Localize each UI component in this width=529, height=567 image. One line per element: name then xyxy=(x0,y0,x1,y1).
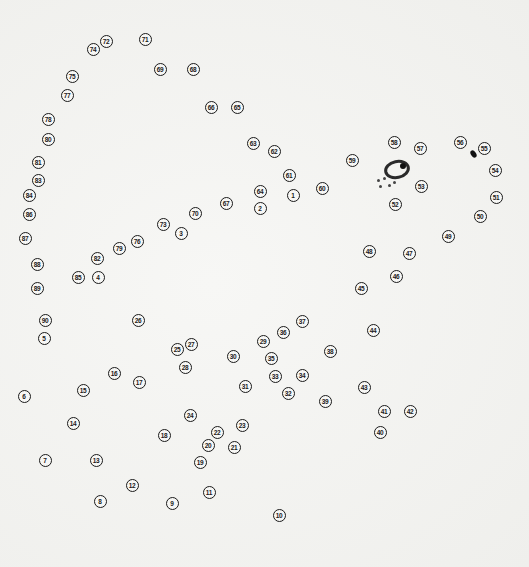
dot-82[interactable]: 82 xyxy=(91,252,104,265)
dot-5[interactable]: 5 xyxy=(38,332,51,345)
dot-31[interactable]: 31 xyxy=(239,380,252,393)
dot-22[interactable]: 22 xyxy=(211,426,224,439)
dot-33[interactable]: 33 xyxy=(269,370,282,383)
dot-29[interactable]: 29 xyxy=(257,335,270,348)
dot-46[interactable]: 46 xyxy=(390,270,403,283)
dot-79[interactable]: 79 xyxy=(113,242,126,255)
dot-47[interactable]: 47 xyxy=(403,247,416,260)
dot-30[interactable]: 30 xyxy=(227,350,240,363)
dot-37[interactable]: 37 xyxy=(296,315,309,328)
dot-13[interactable]: 13 xyxy=(90,454,103,467)
dot-56[interactable]: 56 xyxy=(454,136,467,149)
dot-28[interactable]: 28 xyxy=(179,361,192,374)
dot-69[interactable]: 69 xyxy=(154,63,167,76)
eye-outline xyxy=(382,158,411,182)
dot-9[interactable]: 9 xyxy=(166,497,179,510)
speck-mark xyxy=(379,185,382,188)
dot-39[interactable]: 39 xyxy=(319,395,332,408)
dot-81[interactable]: 81 xyxy=(32,156,45,169)
dot-72[interactable]: 72 xyxy=(100,35,113,48)
dot-18[interactable]: 18 xyxy=(158,429,171,442)
dot-86[interactable]: 86 xyxy=(23,208,36,221)
dot-14[interactable]: 14 xyxy=(67,417,80,430)
dot-60[interactable]: 60 xyxy=(316,182,329,195)
dot-19[interactable]: 19 xyxy=(194,456,207,469)
dot-6[interactable]: 6 xyxy=(18,390,31,403)
eye-pupil xyxy=(400,163,406,169)
dot-48[interactable]: 48 xyxy=(363,245,376,258)
dot-41[interactable]: 41 xyxy=(378,405,391,418)
dot-59[interactable]: 59 xyxy=(346,154,359,167)
dot-32[interactable]: 32 xyxy=(282,387,295,400)
dot-21[interactable]: 21 xyxy=(228,441,241,454)
dot-12[interactable]: 12 xyxy=(126,479,139,492)
dot-80[interactable]: 80 xyxy=(42,133,55,146)
dot-36[interactable]: 36 xyxy=(277,326,290,339)
dot-63[interactable]: 63 xyxy=(247,137,260,150)
dot-16[interactable]: 16 xyxy=(108,367,121,380)
dot-17[interactable]: 17 xyxy=(133,376,146,389)
dot-to-dot-sheet: 1234567891011121314151617181920212223242… xyxy=(0,0,529,567)
speck-mark xyxy=(388,184,391,187)
dot-2[interactable]: 2 xyxy=(254,202,267,215)
dot-7[interactable]: 7 xyxy=(39,454,52,467)
dot-57[interactable]: 57 xyxy=(414,142,427,155)
dot-70[interactable]: 70 xyxy=(189,207,202,220)
dot-85[interactable]: 85 xyxy=(72,271,85,284)
dot-51[interactable]: 51 xyxy=(490,191,503,204)
dot-68[interactable]: 68 xyxy=(187,63,200,76)
dot-64[interactable]: 64 xyxy=(254,185,267,198)
dot-25[interactable]: 25 xyxy=(171,343,184,356)
dot-73[interactable]: 73 xyxy=(157,218,170,231)
dot-4[interactable]: 4 xyxy=(92,271,105,284)
dot-74[interactable]: 74 xyxy=(87,43,100,56)
dot-65[interactable]: 65 xyxy=(231,101,244,114)
dot-71[interactable]: 71 xyxy=(139,33,152,46)
dot-27[interactable]: 27 xyxy=(185,338,198,351)
dot-15[interactable]: 15 xyxy=(77,384,90,397)
dot-20[interactable]: 20 xyxy=(202,439,215,452)
dot-44[interactable]: 44 xyxy=(367,324,380,337)
dot-83[interactable]: 83 xyxy=(32,174,45,187)
dot-55[interactable]: 55 xyxy=(478,142,491,155)
dot-88[interactable]: 88 xyxy=(31,258,44,271)
dot-40[interactable]: 40 xyxy=(374,426,387,439)
dot-66[interactable]: 66 xyxy=(205,101,218,114)
dot-11[interactable]: 11 xyxy=(203,486,216,499)
dot-89[interactable]: 89 xyxy=(31,282,44,295)
dot-45[interactable]: 45 xyxy=(355,282,368,295)
dot-24[interactable]: 24 xyxy=(184,409,197,422)
dot-54[interactable]: 54 xyxy=(489,164,502,177)
dot-8[interactable]: 8 xyxy=(94,495,107,508)
dot-34[interactable]: 34 xyxy=(296,369,309,382)
dot-67[interactable]: 67 xyxy=(220,197,233,210)
dot-62[interactable]: 62 xyxy=(268,145,281,158)
dot-90[interactable]: 90 xyxy=(39,314,52,327)
dot-49[interactable]: 49 xyxy=(442,230,455,243)
dot-61[interactable]: 61 xyxy=(283,169,296,182)
dot-23[interactable]: 23 xyxy=(236,419,249,432)
dot-43[interactable]: 43 xyxy=(358,381,371,394)
dot-1[interactable]: 1 xyxy=(287,189,300,202)
dot-42[interactable]: 42 xyxy=(404,405,417,418)
dot-53[interactable]: 53 xyxy=(415,180,428,193)
dot-52[interactable]: 52 xyxy=(389,198,402,211)
dot-58[interactable]: 58 xyxy=(388,136,401,149)
dot-50[interactable]: 50 xyxy=(474,210,487,223)
dot-10[interactable]: 10 xyxy=(273,509,286,522)
dot-87[interactable]: 87 xyxy=(19,232,32,245)
speck-mark xyxy=(393,181,396,184)
dot-84[interactable]: 84 xyxy=(23,189,36,202)
dot-3[interactable]: 3 xyxy=(175,227,188,240)
dot-26[interactable]: 26 xyxy=(132,314,145,327)
dot-76[interactable]: 76 xyxy=(131,235,144,248)
dot-78[interactable]: 78 xyxy=(42,113,55,126)
speck-mark xyxy=(383,177,386,180)
speck-mark xyxy=(377,179,380,182)
nostril-mark xyxy=(469,149,478,158)
dot-75[interactable]: 75 xyxy=(66,70,79,83)
dot-35[interactable]: 35 xyxy=(265,352,278,365)
dot-77[interactable]: 77 xyxy=(61,89,74,102)
dot-38[interactable]: 38 xyxy=(324,345,337,358)
